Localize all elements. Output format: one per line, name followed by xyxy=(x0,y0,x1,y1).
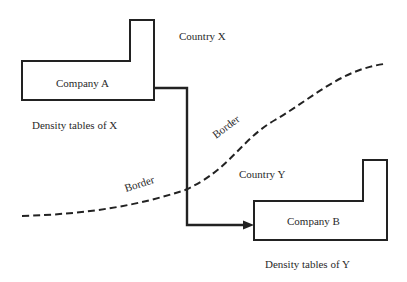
company-b-caption: Density tables of Y xyxy=(265,258,350,270)
country-x-label: Country X xyxy=(179,30,226,42)
company-a-caption: Density tables of X xyxy=(32,119,117,131)
country-y-label: Country Y xyxy=(239,168,285,180)
company-a-label: Company A xyxy=(56,77,109,89)
diagram-canvas: Company A Company B Border Border Countr… xyxy=(0,0,407,282)
border-label-lower: Border xyxy=(123,173,156,194)
company-b-label: Company B xyxy=(287,215,340,227)
arrowhead-icon xyxy=(243,221,254,230)
border-label-upper: Border xyxy=(210,112,242,140)
